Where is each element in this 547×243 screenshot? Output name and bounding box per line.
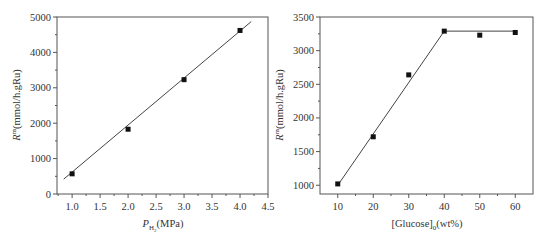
data-point <box>442 29 447 34</box>
y-tick-label: 2000 <box>30 118 51 129</box>
y-tick-label: 3500 <box>293 12 314 23</box>
data-point <box>513 30 518 35</box>
right-chart-glucose: 102030405060100015002000250030003500Rm(m… <box>273 12 533 233</box>
plot-frame <box>320 17 533 194</box>
x-tick-label: 3.5 <box>205 201 218 212</box>
y-axis-label: Rm(mmol/h.gRu) <box>273 69 286 142</box>
x-tick-label: 30 <box>404 201 415 212</box>
y-tick-label: 2500 <box>293 79 314 90</box>
x-axis-label: [Glucose]0(wt%) <box>391 218 463 232</box>
left-chart-pressure: 1.01.52.02.53.03.54.04.50100020003000400… <box>10 12 275 233</box>
x-tick-label: 1.5 <box>94 201 107 212</box>
y-tick-label: 3000 <box>30 82 51 93</box>
x-tick-label: 1.0 <box>66 201 79 212</box>
y-tick-label: 3000 <box>293 45 314 56</box>
data-point <box>70 171 75 176</box>
x-tick-label: 10 <box>333 201 344 212</box>
data-point <box>238 28 243 33</box>
x-tick-label: 2.0 <box>122 201 135 212</box>
y-tick-label: 1000 <box>293 180 314 191</box>
x-tick-label: 50 <box>475 201 486 212</box>
y-axis-label: Rm(mmol/h.gRu) <box>10 69 23 142</box>
fit-line <box>64 22 251 180</box>
data-point <box>371 134 376 139</box>
x-tick-label: 60 <box>510 201 521 212</box>
figure: 1.01.52.02.53.03.54.04.50100020003000400… <box>0 0 547 243</box>
x-tick-label: 4.5 <box>261 201 274 212</box>
x-tick-label: 4.0 <box>233 201 246 212</box>
x-axis-label: PH2(MPa) <box>142 218 184 233</box>
data-point <box>182 77 187 82</box>
data-point <box>477 33 482 38</box>
x-tick-label: 20 <box>368 201 379 212</box>
fit-line <box>338 31 516 185</box>
y-tick-label: 1500 <box>293 146 314 157</box>
y-tick-label: 5000 <box>30 12 51 23</box>
x-tick-label: 40 <box>439 201 450 212</box>
y-tick-label: 0 <box>46 189 51 200</box>
data-point <box>406 72 411 77</box>
plot-frame <box>57 17 268 194</box>
x-tick-label: 2.5 <box>150 201 163 212</box>
data-point <box>126 127 131 132</box>
y-tick-label: 4000 <box>30 47 51 58</box>
x-tick-label: 3.0 <box>177 201 190 212</box>
data-point <box>335 181 340 186</box>
y-tick-label: 2000 <box>293 112 314 123</box>
y-tick-label: 1000 <box>30 153 51 164</box>
